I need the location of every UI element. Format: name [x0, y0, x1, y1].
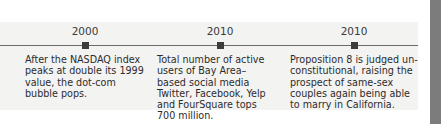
event-marker-icon [351, 42, 358, 49]
event-year: 2010 [324, 25, 384, 37]
event-marker-icon [217, 42, 224, 49]
event-year: 2010 [190, 25, 250, 37]
event-description: After the NASDAQ index peaks at double i… [25, 54, 151, 99]
event-description: Total number of active users of Bay Area… [157, 54, 275, 122]
event-marker-icon [82, 42, 89, 49]
event-description: Proposition 8 is judged un-constitutiona… [290, 54, 418, 110]
page-edge-bar [430, 0, 441, 124]
event-year: 2000 [55, 25, 115, 37]
